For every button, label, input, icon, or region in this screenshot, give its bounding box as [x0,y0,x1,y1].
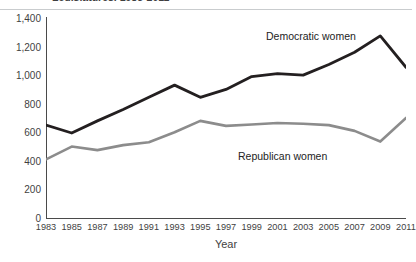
line-republican-women [46,118,406,159]
title-divider [0,9,412,10]
chart-title: Legislatures, 1983-2011 [52,0,352,1]
series-label-democratic: Democratic women [266,30,356,42]
x-tick-label: 2005 [319,222,339,232]
x-tick-label: 2001 [267,222,287,232]
x-tick-label: 1989 [113,222,133,232]
plot-area [46,18,406,218]
x-tick-label: 1997 [216,222,236,232]
y-tick-label: 1,200 [16,41,41,52]
x-tick-label: 1999 [241,222,261,232]
x-axis-ticks: 1983198519871989199119931995199719992001… [46,222,406,236]
series-lines [46,18,406,218]
x-axis-title: Year [46,238,406,250]
series-label-republican: Republican women [238,150,327,162]
x-axis-line [46,218,406,219]
y-tick-label: 600 [24,127,41,138]
x-tick-label: 1983 [36,222,56,232]
x-tick-label: 1987 [87,222,107,232]
x-tick-label: 1991 [139,222,159,232]
y-tick-label: 400 [24,155,41,166]
y-tick-label: 800 [24,98,41,109]
x-tick-label: 1993 [164,222,184,232]
y-tick-label: 200 [24,184,41,195]
x-tick-label: 1985 [61,222,81,232]
x-tick-label: 2009 [370,222,390,232]
line-democratic-women [46,36,406,133]
x-tick-label: 2011 [396,222,416,232]
x-tick-label: 2007 [344,222,364,232]
x-tick-label: 1995 [190,222,210,232]
x-tick-label: 2003 [293,222,313,232]
y-tick-label: 1,000 [16,70,41,81]
y-tick-label: 1,400 [16,13,41,24]
